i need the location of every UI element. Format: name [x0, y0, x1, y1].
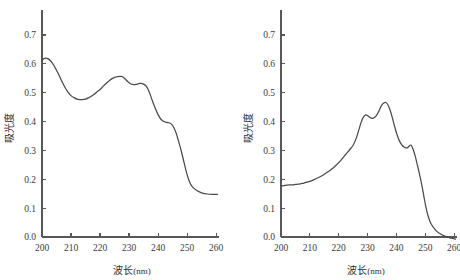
x-tick-label: 230	[360, 243, 375, 253]
absorbance-spectra-figure: 0.00.10.20.30.40.50.60.7 200210220230240…	[0, 0, 460, 280]
y-tick-group	[281, 35, 285, 237]
x-axis-title-text: 波长	[347, 264, 367, 276]
x-ticklabel-group: 200210220230240250260	[274, 243, 460, 253]
x-tick-label: 250	[180, 243, 195, 253]
axes-right	[281, 10, 457, 237]
y-tick-label: 0.6	[263, 59, 275, 69]
y-tick-label: 0.2	[263, 175, 275, 185]
chart-svg-right: 0.00.10.20.30.40.50.60.7 200210220230240…	[230, 0, 460, 280]
x-axis-title: 波长(nm)	[347, 264, 385, 276]
x-tick-label: 230	[122, 243, 137, 253]
y-tick-label: 0.0	[263, 232, 275, 242]
x-tick-label: 210	[303, 243, 318, 253]
x-ticklabel-group: 200210220230240250260	[35, 243, 224, 253]
x-tick-label: 200	[274, 243, 289, 253]
y-tick-label: 0.4	[24, 117, 36, 127]
chart-svg-left: 0.00.10.20.30.40.50.60.7 200210220230240…	[0, 0, 230, 280]
x-tick-label: 250	[418, 243, 433, 253]
y-tick-label: 0.1	[24, 204, 36, 214]
y-tick-label: 0.5	[263, 88, 275, 98]
y-tick-label: 0.6	[24, 59, 36, 69]
x-tick-label: 240	[151, 243, 166, 253]
x-tick-group	[42, 233, 216, 237]
y-ticklabel-group: 0.00.10.20.30.40.50.60.7	[263, 30, 275, 242]
y-tick-label: 0.4	[263, 117, 275, 127]
x-tick-label: 240	[389, 243, 404, 253]
spectrum-curve	[281, 102, 456, 239]
y-tick-label: 0.5	[24, 88, 36, 98]
y-tick-label: 0.3	[263, 146, 275, 156]
x-tick-label: 210	[64, 243, 79, 253]
chart-panel-right: 0.00.10.20.30.40.50.60.7 200210220230240…	[230, 0, 460, 280]
y-tick-label: 0.3	[24, 146, 36, 156]
axes-left	[42, 10, 219, 237]
x-axis-title: 波长(nm)	[113, 264, 151, 276]
x-tick-label: 200	[35, 243, 50, 253]
x-tick-label: 220	[332, 243, 347, 253]
y-tick-label: 0.2	[24, 175, 36, 185]
y-ticklabel-group: 0.00.10.20.30.40.50.60.7	[24, 30, 36, 242]
y-tick-label: 0.7	[24, 30, 36, 40]
x-axis-title-text: 波长	[113, 264, 133, 276]
y-axis-title: 吸光度	[242, 113, 254, 143]
x-tick-group	[281, 233, 454, 237]
spectrum-curve	[42, 58, 218, 194]
y-tick-label: 0.1	[263, 204, 275, 214]
chart-panel-left: 0.00.10.20.30.40.50.60.7 200210220230240…	[0, 0, 230, 280]
y-tick-label: 0.0	[24, 232, 36, 242]
y-tick-label: 0.7	[263, 30, 275, 40]
y-tick-group	[42, 35, 46, 237]
x-tick-label: 260	[447, 243, 460, 253]
x-axis-title-unit: (nm)	[133, 266, 151, 276]
x-tick-label: 220	[93, 243, 108, 253]
x-tick-label: 260	[209, 243, 224, 253]
x-axis-title-unit: (nm)	[367, 266, 385, 276]
y-axis-title: 吸光度	[3, 113, 15, 143]
